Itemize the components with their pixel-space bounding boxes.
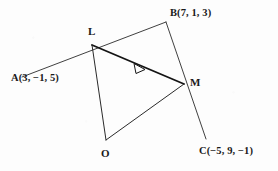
coordinate-label-C: C(−5, 9, −1) bbox=[199, 146, 253, 157]
segment-O-to-M bbox=[106, 84, 184, 140]
geometry-figure: L M O A(3, −1, 5) B(7, 1, 3) C(−5, 9, −1… bbox=[0, 0, 278, 171]
point-label-L: L bbox=[88, 26, 96, 37]
point-label-O: O bbox=[101, 148, 110, 159]
point-label-M: M bbox=[190, 77, 201, 88]
segment-L-to-O bbox=[92, 45, 106, 140]
coordinate-label-B: B(7, 1, 3) bbox=[170, 8, 211, 19]
coordinate-label-A: A(3, −1, 5) bbox=[11, 73, 59, 84]
segment-L-to-M bbox=[92, 45, 184, 84]
